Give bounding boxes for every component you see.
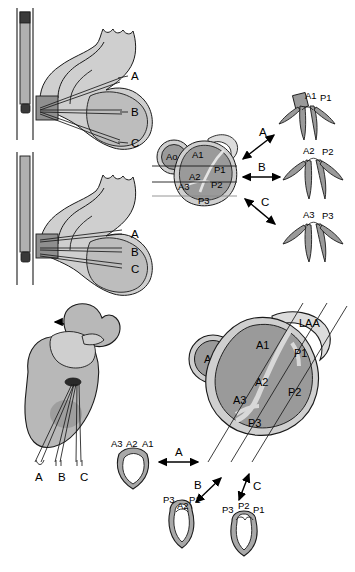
plane-label-c-upper: C [131, 137, 139, 149]
probe-shaft [20, 12, 30, 104]
plane-label-a-anterior: A [35, 471, 43, 483]
scallop-a3-large: A3 [233, 394, 246, 406]
arrow-label-a-bottom: A [175, 446, 183, 458]
scallop-p3-small: P3 [198, 195, 210, 206]
label-a3-valve3: A3 [303, 209, 315, 220]
label-p3-view-b: P3 [163, 494, 175, 505]
plane-label-c-lower: C [131, 263, 139, 275]
scallop-p2-small: P2 [211, 179, 223, 190]
arrow-label-b-bottom: B [194, 479, 202, 491]
probe-tip [21, 104, 30, 113]
label-a2-view-b: A2 [177, 500, 189, 511]
aorta-label-small: Ao [166, 151, 178, 162]
arrow-label-a-top: A [259, 126, 267, 138]
plane-label-a-upper: A [131, 70, 139, 82]
scallop-a1-large: A1 [256, 339, 269, 351]
label-a2-valve2: A2 [303, 145, 315, 156]
label-p2-valve2: P2 [322, 146, 334, 157]
arrow-label-c-top: C [261, 196, 269, 208]
plane-label-b-anterior: B [58, 471, 66, 483]
scallop-a2-small: A2 [189, 171, 201, 182]
label-p1-valve1: P1 [320, 92, 332, 103]
scallop-p1-large: P1 [294, 347, 307, 359]
plane-label-b-upper: B [131, 106, 139, 118]
ventricle-shade [50, 400, 82, 428]
arrow-label-b-top: B [258, 161, 266, 173]
label-a1-valve1: A1 [305, 90, 317, 101]
label-p2-view-c: P2 [238, 500, 250, 511]
scallop-a1-small: A1 [192, 149, 204, 160]
arrow-label-c-bottom: C [253, 480, 261, 492]
plane-label-b-lower: B [131, 246, 139, 258]
label-p3-valve3: P3 [322, 210, 334, 221]
label-a3-view-a: A3 [111, 438, 123, 449]
plane-label-c-anterior: C [80, 471, 88, 483]
scallop-a2-large: A2 [255, 376, 268, 388]
label-p1-view-c: P1 [253, 504, 265, 515]
probe-shaft-2 [20, 156, 30, 252]
label-p3-view-c: P3 [222, 504, 234, 515]
scallop-a3-small: A3 [178, 181, 190, 192]
probe-tip-2 [21, 252, 30, 262]
figure-canvas: A B C A B C Ao [0, 0, 355, 572]
mitral-annulus-lower [36, 234, 58, 258]
label-a1-view-a: A1 [142, 438, 154, 449]
plane-label-a-lower: A [131, 228, 139, 240]
mitral-valve-figure: A B C A B C Ao [0, 0, 355, 572]
probe-connector [20, 12, 30, 23]
label-a2-view-a: A2 [126, 438, 138, 449]
